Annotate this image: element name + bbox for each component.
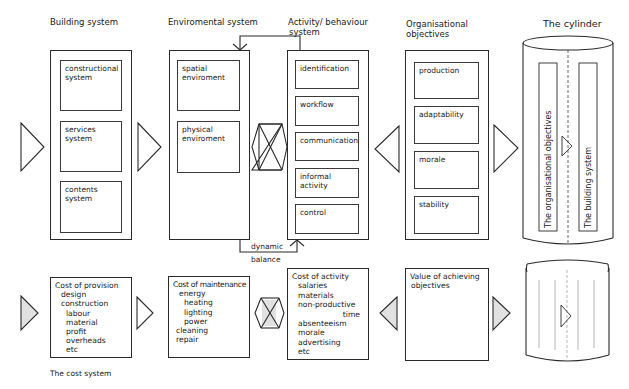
- value-of-achieving-objectives-box: Value of achieving objectives: [405, 268, 489, 361]
- morale-box: morale: [414, 151, 479, 189]
- building-system-title: Building system: [50, 17, 118, 27]
- cost-provision-line: labour: [55, 309, 127, 318]
- cost-activity-line: time: [292, 310, 364, 319]
- cost-provision-line: profit: [55, 327, 127, 336]
- cost-provision-line: construction: [55, 299, 127, 308]
- objectives-triangle-left-icon: [375, 126, 399, 172]
- cost-input-triangle-icon: [21, 296, 38, 330]
- contents-system-box: contents system: [60, 181, 122, 233]
- cost-activity-line: morale: [292, 328, 364, 337]
- physical-environment-box: physical enviroment: [177, 121, 240, 173]
- cost-activity-line: advertising: [292, 338, 364, 347]
- dynamic-balance-label-line1: dynamic: [250, 242, 284, 251]
- dynamic-balance-label-line2: balance: [251, 255, 281, 264]
- activity-system-title-line1: Activity/ behaviour: [288, 17, 368, 27]
- environmental-system-title: Enviromental system: [168, 17, 258, 27]
- adaptability-box: adaptability: [414, 106, 479, 144]
- cost-interaction-hexagram-icon: [255, 298, 284, 328]
- activity-system-title-line2: system: [289, 27, 320, 37]
- organisational-objectives-title-line2: objectives: [406, 29, 449, 39]
- cost-provision-line: design: [55, 290, 127, 299]
- value-heading: Value of achieving: [410, 272, 484, 281]
- value-heading-line2: objectives: [410, 281, 484, 290]
- cost-provision-line: overheads: [55, 336, 127, 345]
- cylinder-organisational-objectives-label: The organisational objectives: [544, 111, 553, 229]
- input-triangle-icon: [21, 123, 44, 171]
- cost-maintenance-line: cleaning: [173, 326, 245, 335]
- workflow-box: workflow: [295, 96, 359, 126]
- production-box: production: [414, 62, 479, 99]
- stability-box: stability: [414, 196, 479, 234]
- cost-maintenance-heading: Cost of maintenance: [173, 280, 245, 289]
- control-box: control: [295, 204, 359, 234]
- value-triangle-left-icon: [380, 297, 397, 330]
- cost-activity-line: salaries: [292, 281, 364, 290]
- cylinder-bottom-icon: [526, 260, 609, 361]
- communication-box: communication: [295, 132, 359, 161]
- cost-provision-line: material: [55, 318, 127, 327]
- cost-activity-line: absenteeism: [292, 319, 364, 328]
- cost-maintenance-line: power: [173, 317, 245, 326]
- cost-maintenance-line: lighting: [173, 308, 245, 317]
- feedback-arrow-top: [240, 36, 300, 50]
- spatial-environment-box: spatial enviroment: [177, 60, 240, 111]
- cost-activity-heading: Cost of activity: [292, 272, 364, 281]
- cylinder-title: The cylinder: [543, 19, 602, 29]
- cylinder-building-system-label: The building system: [584, 147, 593, 228]
- services-system-box: services system: [60, 121, 122, 172]
- cost-activity-line: materials: [292, 291, 364, 300]
- interaction-hexagram-icon: [252, 124, 287, 170]
- cost-provision-heading: Cost of provision: [55, 281, 127, 290]
- cost-activity-line: etc: [292, 347, 364, 356]
- cost-of-activity-box: Cost of activity salaries materials non-…: [287, 268, 369, 360]
- objectives-triangle-right-icon: [494, 125, 518, 172]
- cost-activity-line: non-productive: [292, 300, 364, 309]
- cylinder-top-icon: [523, 36, 613, 244]
- cost-maintenance-line: heating: [173, 298, 245, 307]
- cost-provision-line: etc: [55, 345, 127, 354]
- constructional-system-box: constructional system: [60, 60, 122, 111]
- cost-flow-triangle-icon: [137, 297, 153, 329]
- cost-of-maintenance-box: Cost of maintenance energy heating light…: [168, 276, 250, 358]
- cost-maintenance-line: repair: [173, 335, 245, 344]
- organisational-objectives-title-line1: Organisational: [406, 19, 468, 29]
- flow-triangle-icon: [138, 123, 161, 171]
- cost-system-caption: The cost system: [50, 369, 111, 378]
- value-triangle-right-icon: [493, 297, 510, 330]
- cost-of-provision-box: Cost of provision design construction la…: [50, 277, 132, 358]
- informal-activity-box: informal activity: [295, 168, 359, 198]
- identification-box: identification: [295, 60, 359, 89]
- cost-maintenance-line: energy: [173, 289, 245, 298]
